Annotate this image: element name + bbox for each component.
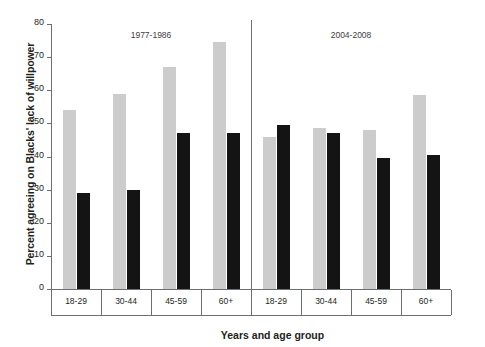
category-separator	[151, 290, 152, 315]
bar-dark-2004-2008-18-29	[277, 125, 290, 289]
bar-dark-1977-1986-45-59	[177, 133, 190, 289]
category-separator	[401, 290, 402, 315]
bar-light-2004-2008-30-44	[313, 128, 326, 289]
category-baseline	[51, 315, 451, 316]
category-label: 45-59	[365, 296, 387, 306]
bar-dark-2004-2008-60+	[427, 155, 440, 289]
bar-dark-2004-2008-45-59	[377, 158, 390, 289]
category-separator	[101, 290, 102, 315]
y-axis-line	[51, 24, 52, 290]
category-label: 18-29	[265, 296, 287, 306]
y-tick-label: 40	[34, 150, 44, 160]
category-separator	[301, 290, 302, 315]
y-tick: 20	[47, 223, 51, 224]
panel-title: 2004-2008	[331, 30, 372, 40]
category-separator	[51, 290, 52, 315]
category-label: 30-44	[315, 296, 337, 306]
y-tick-label: 60	[34, 83, 44, 93]
y-tick: 40	[47, 157, 51, 158]
bar-light-2004-2008-60+	[413, 95, 426, 289]
y-tick: 50	[47, 123, 51, 124]
category-label: 60+	[419, 296, 433, 306]
category-separator	[351, 290, 352, 315]
y-tick-label: 30	[34, 183, 44, 193]
bar-dark-1977-1986-30-44	[127, 190, 140, 289]
category-label: 18-29	[65, 296, 87, 306]
y-tick: 70	[47, 57, 51, 58]
bar-light-2004-2008-45-59	[363, 130, 376, 289]
category-separator	[451, 290, 452, 315]
panel-title: 1977-1986	[131, 30, 172, 40]
y-tick: 10	[47, 256, 51, 257]
y-tick: 80	[47, 24, 51, 25]
y-tick-label: 50	[34, 116, 44, 126]
plot-area: 01020304050607080	[51, 24, 451, 289]
category-label: 60+	[219, 296, 233, 306]
category-label: 45-59	[165, 296, 187, 306]
y-tick: 30	[47, 190, 51, 191]
bar-chart: Percent agreeing on Blacks' lack of will…	[0, 0, 485, 347]
category-label: 30-44	[115, 296, 137, 306]
bar-light-1977-1986-60+	[213, 42, 226, 289]
category-separator	[201, 290, 202, 315]
bar-dark-1977-1986-60+	[227, 133, 240, 289]
y-tick-label: 80	[34, 17, 44, 27]
x-axis-title: Years and age group	[0, 329, 485, 341]
bar-light-2004-2008-18-29	[263, 137, 276, 289]
bar-dark-2004-2008-30-44	[327, 133, 340, 289]
y-tick: 60	[47, 90, 51, 91]
y-tick-label: 20	[34, 216, 44, 226]
bar-light-1977-1986-18-29	[63, 110, 76, 289]
y-tick-label: 70	[34, 50, 44, 60]
category-separator	[251, 290, 252, 315]
category-axis: 18-2930-4445-5960+18-2930-4445-5960+	[51, 290, 451, 316]
bar-light-1977-1986-30-44	[113, 94, 126, 289]
panel-divider	[251, 20, 252, 309]
y-tick-label: 10	[34, 249, 44, 259]
bar-dark-1977-1986-18-29	[77, 193, 90, 289]
bar-light-1977-1986-45-59	[163, 67, 176, 289]
y-tick-label: 0	[39, 282, 44, 292]
